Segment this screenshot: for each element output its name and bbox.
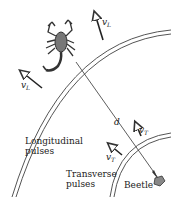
- vL-subscript: L: [107, 21, 111, 28]
- distance-label: d: [114, 117, 120, 127]
- beetle-icon: [154, 176, 165, 186]
- transverse-label-line1: Transverse: [66, 169, 117, 179]
- transverse-label-line2: pulses: [66, 179, 117, 189]
- vL-subscript: L: [26, 84, 30, 91]
- vT-label-top: vT: [139, 125, 148, 138]
- longitudinal-pulses-label: Longitudinal pulses: [25, 136, 83, 156]
- scorpion-icon: [43, 20, 75, 71]
- longitudinal-label-line2: pulses: [25, 146, 83, 156]
- vL-label-top: vL: [102, 17, 111, 30]
- beetle-label: Beetle: [124, 180, 153, 190]
- vT-subscript: T: [144, 129, 148, 136]
- transverse-pulses-label: Transverse pulses: [66, 169, 117, 189]
- vL-label-left: vL: [21, 80, 30, 93]
- vT-label-left: vT: [106, 152, 115, 165]
- vT-subscript: T: [111, 156, 115, 163]
- longitudinal-label-line1: Longitudinal: [25, 136, 83, 146]
- wave-pulse-diagram: [0, 0, 171, 197]
